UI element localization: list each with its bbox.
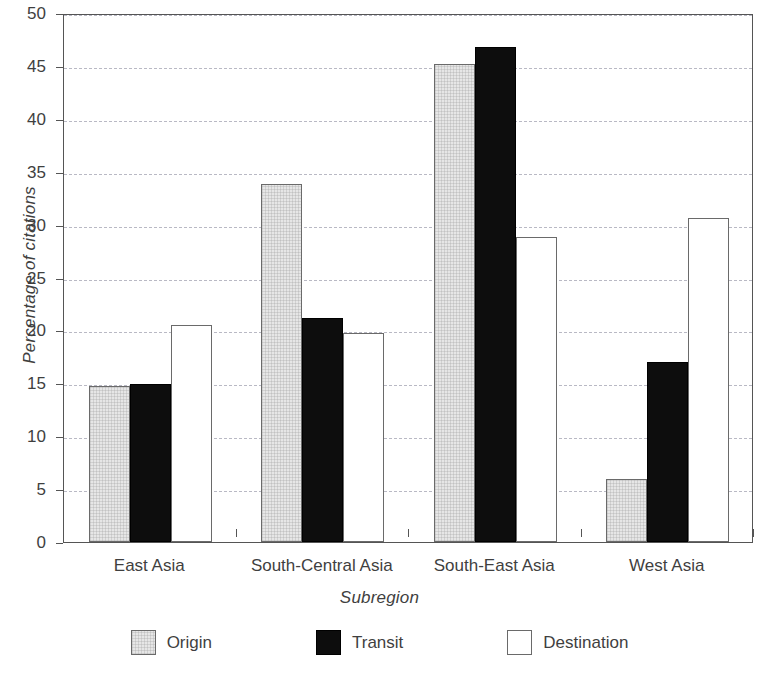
x-axis-tick [581, 529, 582, 537]
legend-swatch-destination [507, 630, 532, 655]
chart-legend: OriginTransitDestination [0, 630, 759, 655]
y-axis-tick [56, 437, 63, 438]
gridline [64, 121, 752, 122]
y-axis-tick [56, 331, 63, 332]
legend-item-origin[interactable]: Origin [131, 630, 212, 655]
gridline [64, 227, 752, 228]
plot-area [63, 14, 753, 543]
bar-east-asia-transit [130, 384, 171, 542]
legend-label: Origin [167, 633, 212, 653]
bar-south-central-asia-origin [261, 184, 302, 542]
legend-swatch-origin [131, 630, 156, 655]
y-axis-label: 15 [0, 374, 46, 394]
y-axis-label: 50 [0, 4, 46, 24]
bar-south-east-asia-destination [516, 237, 557, 542]
legend-item-destination[interactable]: Destination [507, 630, 628, 655]
y-axis-tick [56, 67, 63, 68]
bar-chart: Percentage of citations 0510152025303540… [0, 0, 759, 673]
y-axis-tick [56, 384, 63, 385]
bar-west-asia-transit [647, 362, 688, 542]
y-axis-label: 30 [0, 216, 46, 236]
y-axis-label: 5 [0, 480, 46, 500]
bar-west-asia-origin [606, 479, 647, 542]
y-axis-label: 20 [0, 321, 46, 341]
gridline [64, 68, 752, 69]
y-axis-tick [56, 226, 63, 227]
y-axis-label: 45 [0, 57, 46, 77]
y-axis-tick [56, 14, 63, 15]
gridline [64, 332, 752, 333]
y-axis-label: 25 [0, 269, 46, 289]
bar-south-east-asia-transit [475, 47, 516, 542]
x-axis-category-label: West Asia [629, 556, 704, 576]
x-axis-category-label: South-Central Asia [251, 556, 393, 576]
x-axis-tick [63, 529, 64, 537]
y-axis-tick [56, 173, 63, 174]
y-axis-tick [56, 543, 63, 544]
bar-south-central-asia-destination [343, 333, 384, 542]
x-axis-tick [753, 529, 754, 537]
bar-west-asia-destination [688, 218, 729, 542]
plot-inner [64, 15, 752, 542]
gridline [64, 15, 752, 16]
bar-east-asia-destination [171, 325, 212, 542]
y-axis-label: 35 [0, 163, 46, 183]
x-axis-tick [408, 529, 409, 537]
bar-south-central-asia-transit [302, 318, 343, 542]
x-axis-category-label: South-East Asia [434, 556, 555, 576]
y-axis-label: 0 [0, 533, 46, 553]
x-axis-tick [236, 529, 237, 537]
y-axis-tick [56, 120, 63, 121]
legend-label: Destination [543, 633, 628, 653]
legend-label: Transit [352, 633, 403, 653]
x-axis-title: Subregion [0, 588, 759, 608]
bar-east-asia-origin [89, 386, 130, 542]
y-axis-tick [56, 279, 63, 280]
gridline [64, 280, 752, 281]
gridline [64, 174, 752, 175]
legend-swatch-transit [316, 630, 341, 655]
y-axis-label: 40 [0, 110, 46, 130]
y-axis-label: 10 [0, 427, 46, 447]
legend-item-transit[interactable]: Transit [316, 630, 403, 655]
bar-south-east-asia-origin [434, 64, 475, 542]
x-axis-category-label: East Asia [114, 556, 185, 576]
y-axis-tick [56, 490, 63, 491]
